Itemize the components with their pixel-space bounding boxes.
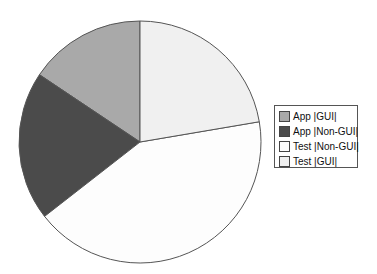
legend-item-app-gui: App |GUI|	[279, 109, 357, 124]
legend-item-app-non-gui: App |Non-GUI|	[279, 124, 357, 139]
chart-legend: App |GUI| App |Non-GUI| Test |Non-GUI| T…	[274, 105, 358, 168]
legend-swatch	[279, 111, 290, 122]
legend-item-test-gui: Test |GUI|	[279, 154, 357, 169]
legend-swatch	[279, 156, 290, 167]
legend-label: App |Non-GUI|	[293, 126, 358, 137]
legend-label: Test |GUI|	[293, 156, 337, 167]
legend-swatch	[279, 126, 290, 137]
pie-slice	[140, 21, 259, 142]
legend-label: Test |Non-GUI|	[293, 141, 359, 152]
legend-label: App |GUI|	[293, 111, 337, 122]
legend-item-test-non-gui: Test |Non-GUI|	[279, 139, 357, 154]
legend-swatch	[279, 141, 290, 152]
